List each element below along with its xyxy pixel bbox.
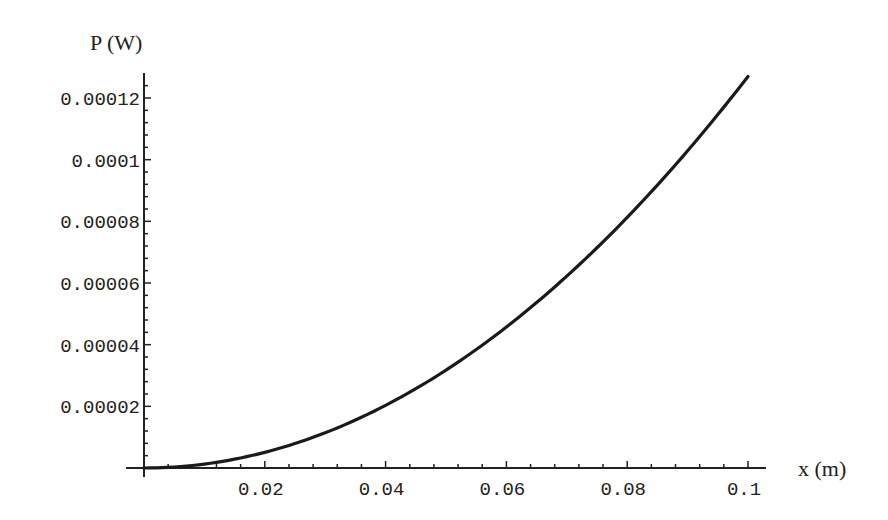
y-tick-label: 0.00006	[60, 274, 140, 296]
y-tick-label: 0.00002	[60, 397, 140, 419]
data-curve	[144, 76, 748, 468]
y-tick-label: 0.00008	[60, 212, 140, 234]
x-tick-label: 0.04	[359, 479, 405, 501]
y-tick-label: 0.00012	[60, 89, 140, 111]
x-axis-title: x (m)	[798, 456, 846, 481]
y-tick-label: 0.0001	[72, 151, 140, 173]
y-axis-title: P (W)	[90, 30, 142, 55]
y-axis: 0.000020.000040.000060.000080.00010.0001…	[60, 73, 151, 477]
x-tick-label: 0.02	[238, 479, 284, 501]
x-axis: 0.020.040.060.080.1	[126, 461, 766, 501]
chart: 0.000020.000040.000060.000080.00010.0001…	[0, 0, 888, 520]
y-tick-label: 0.00004	[60, 336, 140, 358]
x-tick-label: 0.1	[727, 479, 761, 501]
x-tick-label: 0.06	[480, 479, 526, 501]
x-tick-label: 0.08	[600, 479, 646, 501]
